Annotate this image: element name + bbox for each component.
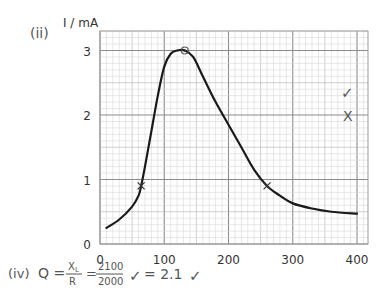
svg-text:1: 1 (83, 174, 91, 188)
resonance-chart: 01002003004000123 (ii) I / mA ✓ X (iv) Q… (0, 0, 382, 293)
svg-text:200: 200 (217, 253, 240, 267)
part-label: (ii) (30, 25, 49, 41)
formula-tick-icon-1: ✓ (129, 267, 142, 285)
axis-tick-labels: 01002003004000123 (83, 45, 368, 268)
margin-cross-icon: X (343, 108, 353, 124)
formula-frac1-den: R (69, 276, 76, 287)
formula-frac1-num-sub: L (75, 266, 79, 274)
formula-equals: = (86, 266, 97, 281)
svg-text:0: 0 (83, 238, 91, 252)
formula-frac2-num: 2100 (98, 261, 123, 272)
formula-frac1-num: X (68, 261, 75, 272)
svg-text:300: 300 (281, 253, 304, 267)
formula-frac2-den: 2000 (98, 276, 123, 287)
formula-tick-icon-2: ✓ (189, 267, 202, 285)
formula-lhs: Q = (38, 265, 65, 281)
svg-text:2: 2 (83, 109, 91, 123)
y-axis-label: I / mA (63, 16, 99, 30)
svg-text:400: 400 (346, 253, 369, 267)
svg-text:3: 3 (83, 45, 91, 59)
formula-result: = 2.1 (144, 266, 182, 282)
formula-part-label: (iv) (8, 266, 29, 281)
svg-text:100: 100 (153, 253, 176, 267)
margin-tick-icon: ✓ (341, 84, 354, 102)
